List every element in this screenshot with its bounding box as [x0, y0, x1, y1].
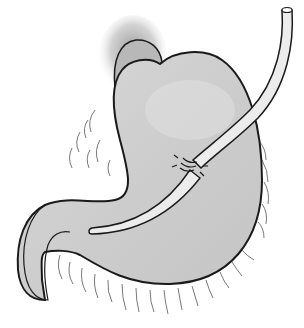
stomach-body: [18, 52, 262, 300]
stomach-illustration: [0, 0, 304, 328]
stomach-highlight: [145, 80, 235, 140]
tube-opening: [282, 8, 292, 13]
